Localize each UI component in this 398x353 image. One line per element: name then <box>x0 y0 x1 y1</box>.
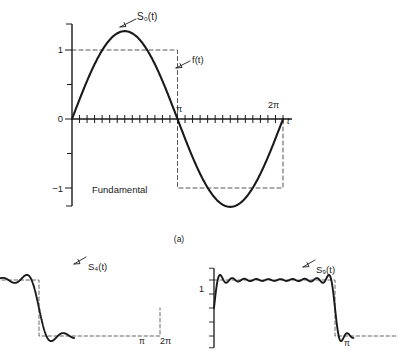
y-tick-label-minus-1: −1 <box>52 183 63 194</box>
series-label-s9: S₉(t) <box>316 264 335 275</box>
series-label-ft: f(t) <box>192 54 204 65</box>
annotations-bl <box>74 257 86 264</box>
x-tick-label-2pi: 2π <box>268 100 279 110</box>
figure-caption-a: (a) <box>174 234 184 244</box>
x-tick-label-pi: π <box>176 104 182 114</box>
series-label-s4: S₄(t) <box>88 261 107 272</box>
y-tick-label-0: 0 <box>58 113 63 124</box>
panel-b-left-plot <box>0 252 128 353</box>
panel-a-plot: 1 0 −1 π 2π t S₀(t) f(t) Fundamental <box>0 0 358 230</box>
annotations-a <box>120 19 190 68</box>
square-wave-dashed-br <box>214 280 398 336</box>
x-tick-label-2pi-bl: 2π <box>160 336 171 346</box>
y-tick-label-1-br: 1 <box>199 284 204 294</box>
x-tick-label-pi-bl: π <box>139 336 145 346</box>
square-wave-dashed-bl <box>0 280 160 336</box>
panel-b-right-plot <box>198 252 398 353</box>
annotation-fundamental: Fundamental <box>92 184 147 195</box>
annotations-br <box>303 260 315 267</box>
s9-partial-sum-curve <box>214 275 353 341</box>
s4-partial-sum-curve <box>0 275 74 341</box>
x-tick-label-pi-br: π <box>344 338 350 348</box>
y-tick-label-1: 1 <box>58 44 63 55</box>
x-axis-label: t <box>287 116 290 126</box>
series-label-s0: S₀(t) <box>137 11 157 22</box>
